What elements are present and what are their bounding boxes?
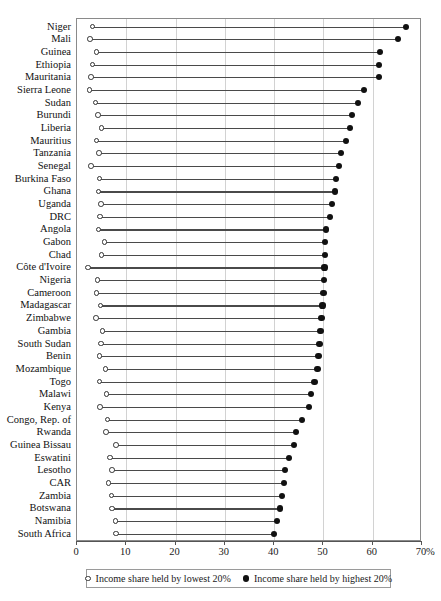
y-label-zimbabwe: Zimbabwe (2, 311, 71, 324)
open-circle-icon (85, 576, 91, 582)
marker-lowest-20 (97, 353, 103, 359)
connector-line (98, 293, 324, 294)
connector-line (101, 382, 315, 383)
y-label-south-sudan: South Sudan (2, 337, 71, 350)
connector-line (106, 242, 326, 243)
marker-highest-20 (332, 188, 338, 194)
data-row (77, 376, 420, 389)
data-row (77, 97, 420, 110)
connector-line (116, 521, 277, 522)
data-row (77, 109, 420, 122)
marker-highest-20 (321, 264, 327, 270)
y-label-guinea: Guinea (2, 45, 71, 58)
y-label-eswatini: Eswatini (2, 451, 71, 464)
marker-lowest-20 (98, 201, 104, 207)
y-label-angola: Angola (2, 222, 71, 235)
income-share-chart: NigerMaliGuineaEthiopiaMauritaniaSierra … (0, 0, 441, 601)
marker-lowest-20 (90, 62, 96, 68)
marker-lowest-20 (103, 429, 109, 435)
marker-lowest-20 (104, 391, 110, 397)
y-label-south-africa: South Africa (2, 527, 71, 540)
x-tick-70 (421, 541, 422, 545)
data-row (77, 515, 420, 528)
connector-line (92, 166, 339, 167)
marker-lowest-20 (98, 341, 104, 347)
marker-lowest-20 (95, 112, 101, 118)
connector-line (109, 420, 302, 421)
connector-line (92, 77, 378, 78)
y-label-mauritius: Mauritius (2, 134, 71, 147)
marker-lowest-20 (103, 366, 109, 372)
connector-line (99, 115, 352, 116)
marker-lowest-20 (88, 74, 94, 80)
data-row (77, 363, 420, 376)
marker-lowest-20 (113, 518, 119, 524)
data-row (77, 223, 420, 236)
y-label-benin: Benin (2, 349, 71, 362)
data-row (77, 528, 420, 541)
marker-lowest-20 (113, 442, 119, 448)
data-row (77, 464, 420, 477)
x-tick-20 (175, 541, 176, 545)
y-label-burkina-faso: Burkina Faso (2, 172, 71, 185)
data-row (77, 160, 420, 173)
y-label-sudan: Sudan (2, 96, 71, 109)
connector-line (113, 508, 280, 509)
data-row (77, 388, 420, 401)
y-label-madagascar: Madagascar (2, 298, 71, 311)
y-label-congo-rep-of: Congo, Rep. of (2, 413, 71, 426)
connector-line (98, 52, 380, 53)
y-label-gambia: Gambia (2, 324, 71, 337)
y-label-drc: DRC (2, 210, 71, 223)
y-label-mauritania: Mauritania (2, 70, 71, 83)
connector-line (107, 432, 296, 433)
data-row (77, 452, 420, 465)
connector-line (102, 204, 332, 205)
legend-item-highest: Income share held by highest 20% (243, 573, 392, 584)
x-tick-label-30: 30 (219, 546, 230, 557)
marker-highest-20 (336, 163, 342, 169)
y-label-namibia: Namibia (2, 514, 71, 527)
data-row (77, 502, 420, 515)
marker-highest-20 (376, 62, 382, 68)
marker-lowest-20 (93, 100, 99, 106)
y-label-kenya: Kenya (2, 400, 71, 413)
marker-highest-20 (277, 505, 283, 511)
connector-line (111, 458, 289, 459)
y-label-togo: Togo (2, 375, 71, 388)
data-row (77, 122, 420, 135)
marker-highest-20 (377, 49, 383, 55)
x-tick-label-10: 10 (120, 546, 131, 557)
marker-lowest-20 (106, 480, 112, 486)
x-tick-label-50: 50 (317, 546, 328, 557)
data-row (77, 299, 420, 312)
connector-line (101, 356, 319, 357)
chart-legend: Income share held by lowest 20% Income s… (86, 569, 391, 588)
data-row (77, 261, 420, 274)
data-row (77, 426, 420, 439)
x-axis-unit-label: % (426, 546, 435, 557)
marker-highest-20 (281, 480, 287, 486)
marker-lowest-20 (105, 417, 111, 423)
marker-highest-20 (403, 24, 409, 30)
data-row (77, 414, 420, 427)
y-label-senegal: Senegal (2, 159, 71, 172)
marker-highest-20 (279, 493, 285, 499)
marker-lowest-20 (94, 138, 100, 144)
marker-lowest-20 (97, 379, 103, 385)
connector-line (110, 483, 284, 484)
connector-line (100, 229, 327, 230)
marker-highest-20 (321, 277, 327, 283)
marker-lowest-20 (94, 290, 100, 296)
x-tick-0 (76, 541, 77, 545)
marker-highest-20 (299, 417, 305, 423)
marker-lowest-20 (96, 150, 102, 156)
data-row (77, 477, 420, 490)
data-row (77, 147, 420, 160)
y-label-rwanda: Rwanda (2, 425, 71, 438)
y-label-malawi: Malawi (2, 387, 71, 400)
data-row (77, 274, 420, 287)
y-label-niger: Niger (2, 20, 71, 33)
data-row (77, 71, 420, 84)
y-label-zambia: Zambia (2, 489, 71, 502)
